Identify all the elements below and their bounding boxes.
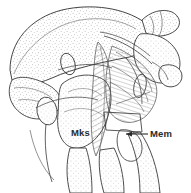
label-mem: Mem [150,128,172,139]
label-mks: Mks [71,127,90,138]
figure-drawing-canvas [0,0,191,193]
structure-anterior-process [142,10,179,36]
anatomical-figure: Mks Mem [0,0,191,193]
